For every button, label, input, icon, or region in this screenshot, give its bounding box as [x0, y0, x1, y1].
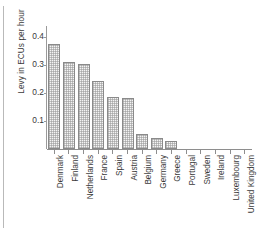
bar-slot — [193, 26, 208, 149]
bar — [165, 141, 177, 149]
bar-slot — [106, 26, 121, 149]
bar-slot — [208, 26, 223, 149]
x-axis-tick — [193, 150, 208, 154]
x-axis-tick — [237, 150, 252, 154]
x-axis-tick-mark — [200, 150, 201, 154]
y-axis-tick-label: 0.1 — [22, 116, 44, 124]
x-axis-tick — [47, 150, 62, 154]
bar-slot — [91, 26, 106, 149]
bar-slot — [47, 26, 62, 149]
bar-chart-figure: Levy in ECUs per hour 0.10.20.30.4 Denma… — [0, 0, 264, 233]
bar-slot — [62, 26, 77, 149]
y-axis-tick-label: 0.3 — [22, 60, 44, 68]
bar-slot — [223, 26, 238, 149]
bar-series — [47, 26, 252, 149]
x-axis-tick-labels: DenmarkFinlandNetherlandsFranceSpainAust… — [47, 155, 252, 231]
x-axis-tick-mark — [98, 150, 99, 154]
x-axis-tick-label: United Kingdom — [248, 155, 256, 213]
bar-slot — [76, 26, 91, 149]
bar — [92, 81, 104, 149]
x-axis-tick-mark — [112, 150, 113, 154]
x-axis-tick — [106, 150, 121, 154]
x-axis-tick-mark — [230, 150, 231, 154]
bar-slot — [164, 26, 179, 149]
x-axis-tick — [91, 150, 106, 154]
bar — [63, 62, 75, 149]
bar-slot — [149, 26, 164, 149]
x-axis-label-slot: Belgium — [135, 155, 150, 231]
x-axis-tick-mark — [244, 150, 245, 154]
bar — [78, 64, 90, 149]
x-axis-label-slot: Spain — [106, 155, 121, 231]
x-axis-tick — [62, 150, 77, 154]
x-axis-label-slot: France — [91, 155, 106, 231]
x-axis-tick — [135, 150, 150, 154]
x-axis-tick — [164, 150, 179, 154]
bar-slot — [237, 26, 252, 149]
x-axis-label-slot: Denmark — [47, 155, 62, 231]
x-axis-tick-mark — [215, 150, 216, 154]
bar — [48, 44, 60, 149]
x-axis-tick-mark — [171, 150, 172, 154]
x-axis-tick-mark — [68, 150, 69, 154]
bar-slot — [135, 26, 150, 149]
x-axis-tick-mark — [83, 150, 84, 154]
x-axis-label-slot: Austria — [120, 155, 135, 231]
x-axis-tick — [149, 150, 164, 154]
x-axis-tick — [179, 150, 194, 154]
x-axis-tick-mark — [156, 150, 157, 154]
x-axis-tick — [76, 150, 91, 154]
x-axis-tick-marks — [47, 150, 252, 154]
x-axis-label-slot: Finland — [62, 155, 77, 231]
x-axis-label-slot: United Kingdom — [237, 155, 252, 231]
x-axis-tick-mark — [186, 150, 187, 154]
x-axis-tick-mark — [127, 150, 128, 154]
x-axis-tick — [223, 150, 238, 154]
bar — [136, 134, 148, 149]
x-axis-label-slot: Greece — [164, 155, 179, 231]
x-axis-tick-mark — [142, 150, 143, 154]
x-axis-tick — [208, 150, 223, 154]
x-axis-label-slot: Portugal — [179, 155, 194, 231]
x-axis-label-slot: Luxembourg — [223, 155, 238, 231]
x-axis-tick — [120, 150, 135, 154]
plot-area — [47, 26, 252, 149]
bar-slot — [179, 26, 194, 149]
x-axis-label-slot: Ireland — [208, 155, 223, 231]
x-axis-label-slot: Germany — [149, 155, 164, 231]
y-axis-tick-label: 0.2 — [22, 88, 44, 96]
bar — [151, 138, 163, 149]
bar-slot — [120, 26, 135, 149]
x-axis-label-slot: Netherlands — [76, 155, 91, 231]
y-axis-tick-label: 0.4 — [22, 32, 44, 40]
bar — [122, 98, 134, 149]
x-axis-tick-mark — [54, 150, 55, 154]
x-axis-label-slot: Sweden — [193, 155, 208, 231]
bar — [107, 97, 119, 149]
